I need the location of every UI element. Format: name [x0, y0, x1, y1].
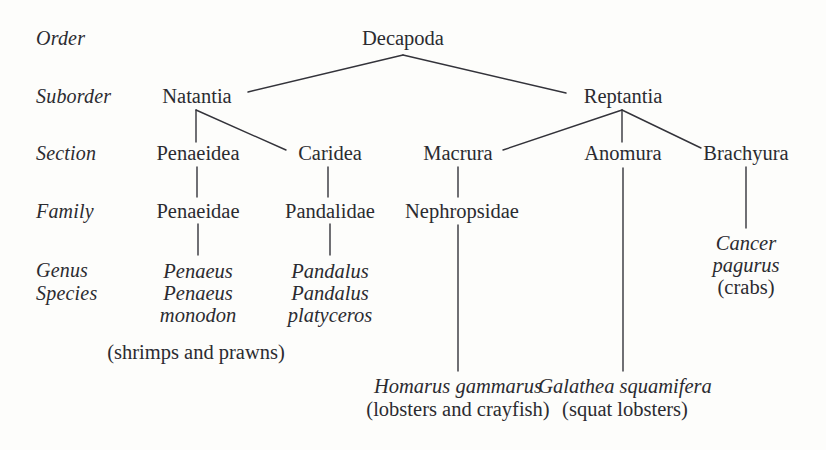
rank-label-order: Order: [36, 27, 85, 50]
caption-shrimps-and-prawns: (shrimps and prawns): [107, 341, 285, 363]
rank-label-family-text: Family: [36, 200, 94, 222]
rank-label-family: Family: [36, 200, 94, 223]
rank-label-section: Section: [36, 142, 96, 165]
species-penaeus-line1: Penaeus: [160, 282, 236, 304]
node-caridea: Caridea: [298, 142, 362, 164]
node-reptantia: Reptantia: [584, 85, 663, 107]
species-pandalus-line2: platyceros: [288, 304, 373, 326]
leaf-group-penaeus: Penaeus Penaeus monodon: [160, 260, 236, 326]
node-pandalidae: Pandalidae: [285, 200, 375, 222]
node-anomura: Anomura: [584, 142, 661, 164]
node-decapoda: Decapoda: [362, 27, 444, 49]
genus-cancer: Cancer: [712, 232, 779, 254]
species-penaeus-line2: monodon: [160, 304, 236, 326]
node-penaeidea: Penaeidea: [156, 142, 239, 164]
genus-pandalus: Pandalus: [288, 260, 373, 282]
rank-label-suborder: Suborder: [36, 85, 111, 108]
rank-label-section-text: Section: [36, 142, 96, 164]
genus-penaeus: Penaeus: [160, 260, 236, 282]
rank-label-genus-text: Genus: [36, 259, 88, 281]
taxonomy-diagram: Order Suborder Section Family Genus Spec…: [0, 0, 826, 450]
common-name-crabs: (crabs): [712, 276, 779, 298]
caption-lobsters-and-crayfish: (lobsters and crayfish): [366, 398, 549, 420]
connector-decapoda-to-reptantia: [403, 55, 566, 93]
leaf-group-cancer: Cancer pagurus (crabs): [712, 232, 779, 298]
node-natantia: Natantia: [162, 85, 231, 107]
caption-galathea-squamifera: Galathea squamifera: [538, 375, 712, 397]
node-brachyura: Brachyura: [703, 142, 788, 164]
species-pandalus-line1: Pandalus: [288, 282, 373, 304]
node-nephropsidae: Nephropsidae: [405, 200, 519, 222]
leaf-group-pandalus: Pandalus Pandalus platyceros: [288, 260, 373, 326]
rank-label-suborder-text: Suborder: [36, 85, 111, 107]
species-cancer-line2: pagurus: [712, 254, 779, 276]
rank-label-species: Species: [36, 282, 97, 305]
caption-homarus-gammarus: Homarus gammarus: [374, 375, 542, 397]
connector-decapoda-to-natantia: [248, 55, 403, 92]
caption-squat-lobsters: (squat lobsters): [562, 398, 688, 420]
rank-label-genus: Genus: [36, 259, 88, 282]
node-macrura: Macrura: [423, 142, 492, 164]
rank-label-order-text: Order: [36, 27, 85, 49]
node-penaeidae: Penaeidae: [156, 200, 239, 222]
rank-label-species-text: Species: [36, 282, 97, 304]
